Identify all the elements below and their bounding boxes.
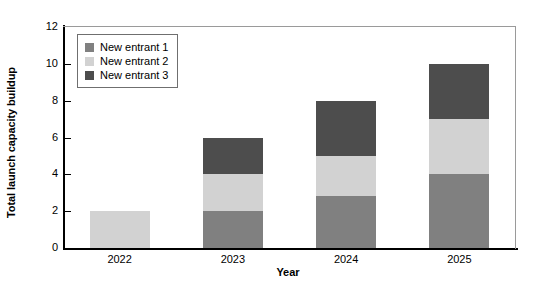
- legend-item[interactable]: New entrant 1: [85, 40, 168, 54]
- legend-label: New entrant 2: [100, 56, 168, 67]
- bar-segment[interactable]: [203, 138, 263, 175]
- y-tick-label: 12: [32, 21, 58, 32]
- y-tick-label: 6: [32, 132, 58, 143]
- x-tick-label: 2025: [419, 253, 499, 265]
- legend-swatch-icon: [85, 71, 94, 80]
- bar-2025[interactable]: [429, 27, 489, 248]
- bar-segment[interactable]: [429, 64, 489, 119]
- x-tick-label: 2023: [193, 253, 273, 265]
- chart-figure: Total launch capacity buildup Year 02468…: [0, 0, 536, 285]
- y-axis-title: Total launch capacity buildup: [0, 0, 22, 285]
- x-tick-label: 2022: [80, 253, 160, 265]
- bar-segment[interactable]: [316, 101, 376, 156]
- bar-segment[interactable]: [90, 211, 150, 248]
- bar-2024[interactable]: [316, 27, 376, 248]
- legend-item[interactable]: New entrant 2: [85, 54, 168, 68]
- x-axis-title: Year: [60, 266, 516, 278]
- bar-segment[interactable]: [203, 174, 263, 211]
- bar-segment[interactable]: [429, 174, 489, 248]
- legend-label: New entrant 1: [100, 42, 168, 53]
- legend-swatch-icon: [85, 43, 94, 52]
- bar-segment[interactable]: [316, 156, 376, 197]
- bar-segment[interactable]: [316, 196, 376, 248]
- bar-2023[interactable]: [203, 27, 263, 248]
- legend-label: New entrant 3: [100, 70, 168, 81]
- y-tick-label: 10: [32, 58, 58, 69]
- y-tick-label: 2: [32, 205, 58, 216]
- y-tick-label: 8: [32, 95, 58, 106]
- bar-segment[interactable]: [429, 119, 489, 174]
- legend-item[interactable]: New entrant 3: [85, 68, 168, 82]
- bar-segment[interactable]: [203, 211, 263, 248]
- x-axis-line: [63, 248, 518, 250]
- legend-swatch-icon: [85, 57, 94, 66]
- x-tick-label: 2024: [306, 253, 386, 265]
- chart-legend: New entrant 1New entrant 2New entrant 3: [77, 34, 178, 88]
- y-tick-label: 4: [32, 168, 58, 179]
- y-tick-label: 0: [32, 242, 58, 253]
